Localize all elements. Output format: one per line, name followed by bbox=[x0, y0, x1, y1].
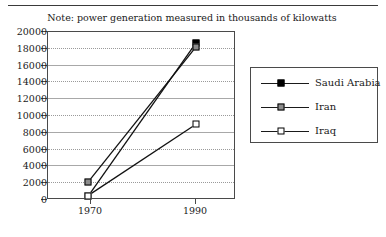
y-tick-label-4000: 4000 bbox=[3, 161, 47, 170]
y-tick-label-10000: 10000 bbox=[3, 111, 47, 120]
legend-item-saudi-arabia[interactable]: Saudi Arabia bbox=[251, 74, 379, 92]
y-tick-label-6000: 6000 bbox=[3, 144, 47, 153]
gridline-16000 bbox=[48, 65, 234, 66]
gridline-14000 bbox=[48, 81, 234, 82]
top-divider-rule bbox=[8, 5, 378, 6]
gridline-10000 bbox=[48, 115, 234, 116]
y-tick-label-16000: 16000 bbox=[3, 60, 47, 69]
data-point-iraq-1970 bbox=[85, 192, 92, 199]
x-tick-1990 bbox=[195, 199, 196, 204]
legend-label: Iraq bbox=[315, 123, 336, 139]
filled-square-marker bbox=[278, 80, 285, 87]
y-tick-label-8000: 8000 bbox=[3, 127, 47, 136]
plot-area bbox=[47, 31, 235, 199]
legend-box: Saudi ArabiaIranIraq bbox=[250, 67, 378, 143]
gridline-18000 bbox=[48, 48, 234, 49]
x-tick-label-1970: 1970 bbox=[60, 205, 120, 217]
y-tick-label-0: 0 bbox=[3, 195, 47, 204]
legend-item-iran[interactable]: Iran bbox=[251, 98, 379, 116]
legend-label: Saudi Arabia bbox=[315, 75, 381, 91]
y-tick-label-18000: 18000 bbox=[3, 43, 47, 52]
gridline-4000 bbox=[48, 165, 234, 166]
x-tick-label-1990: 1990 bbox=[165, 205, 225, 217]
open-square-marker bbox=[278, 128, 285, 135]
data-point-iran-1990 bbox=[193, 43, 200, 50]
gridline-2000 bbox=[48, 182, 234, 183]
chart-note: Note: power generation measured in thous… bbox=[47, 12, 337, 24]
y-tick-label-14000: 14000 bbox=[3, 77, 47, 86]
legend-line-swatch bbox=[261, 131, 309, 132]
half-filled-square-marker bbox=[278, 104, 285, 111]
gridline-6000 bbox=[48, 149, 234, 150]
legend-line-swatch bbox=[261, 83, 309, 84]
y-tick-label-2000: 2000 bbox=[3, 178, 47, 187]
y-tick-label-12000: 12000 bbox=[3, 94, 47, 103]
legend-line-swatch bbox=[261, 107, 309, 108]
data-point-iraq-1990 bbox=[193, 121, 200, 128]
data-point-iran-1970 bbox=[85, 179, 92, 186]
legend-item-iraq[interactable]: Iraq bbox=[251, 122, 379, 140]
legend-label: Iran bbox=[315, 99, 336, 115]
chart-figure: Note: power generation measured in thous… bbox=[0, 0, 386, 237]
gridline-12000 bbox=[48, 98, 234, 99]
y-tick-label-20000: 20000 bbox=[3, 27, 47, 36]
y-axis: 0200040006000800010000120001400016000180… bbox=[0, 31, 47, 199]
gridline-8000 bbox=[48, 132, 234, 133]
